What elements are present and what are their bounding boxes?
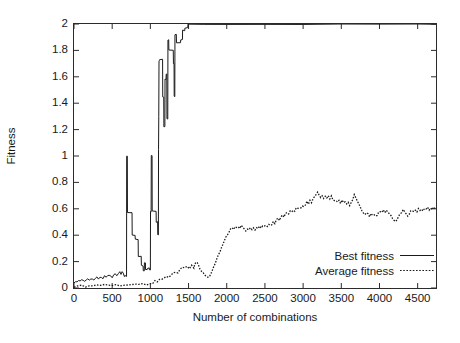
x-tick-label: 1500 bbox=[176, 292, 202, 304]
x-axis-label: Number of combinations bbox=[73, 311, 437, 323]
y-tick-label: 1.6 bbox=[34, 71, 68, 82]
y-tick-label: 1.2 bbox=[34, 124, 68, 135]
chart-legend: Best fitness Average fitness bbox=[292, 248, 434, 278]
x-tick-label: 0 bbox=[71, 292, 77, 304]
y-tick-label: 0.8 bbox=[34, 176, 68, 187]
legend-label-average-fitness: Average fitness bbox=[315, 265, 394, 277]
x-tick-label: 500 bbox=[103, 292, 122, 304]
x-tick-label: 2000 bbox=[214, 292, 240, 304]
y-tick-label: 0 bbox=[34, 282, 68, 293]
x-tick-label: 4000 bbox=[367, 292, 393, 304]
y-tick-label: 1.8 bbox=[34, 44, 68, 55]
legend-item-average-fitness: Average fitness bbox=[292, 263, 434, 278]
y-axis-tick-labels: 00.20.40.60.811.21.41.61.82 bbox=[30, 0, 68, 343]
y-tick-label: 1.4 bbox=[34, 97, 68, 108]
x-tick-label: 1000 bbox=[138, 292, 164, 304]
x-tick-label: 4500 bbox=[405, 292, 431, 304]
y-tick-label: 1 bbox=[34, 150, 68, 161]
legend-line-sample-dotted bbox=[400, 266, 434, 275]
chart-figure: Fitness 00.20.40.60.811.21.41.61.82 Numb… bbox=[0, 0, 460, 343]
legend-line-sample-solid bbox=[400, 251, 434, 260]
legend-label-best-fitness: Best fitness bbox=[335, 250, 394, 262]
series-line-best-fitness bbox=[74, 24, 436, 283]
y-tick-label: 0.2 bbox=[34, 256, 68, 267]
y-tick-label: 2 bbox=[34, 18, 68, 29]
x-tick-label: 2500 bbox=[252, 292, 278, 304]
y-tick-label: 0.6 bbox=[34, 203, 68, 214]
x-tick-label: 3000 bbox=[290, 292, 316, 304]
legend-item-best-fitness: Best fitness bbox=[292, 248, 434, 263]
x-tick-label: 3500 bbox=[329, 292, 355, 304]
y-tick-label: 0.4 bbox=[34, 229, 68, 240]
y-axis-label: Fitness bbox=[5, 116, 17, 176]
